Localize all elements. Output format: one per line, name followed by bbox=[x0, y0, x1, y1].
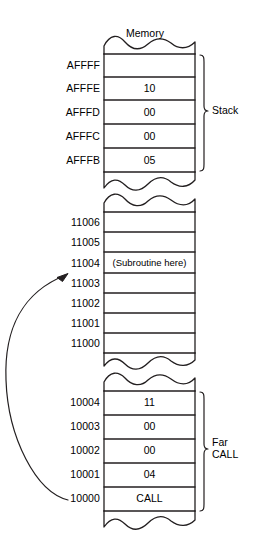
cell-value-10000: CALL bbox=[104, 492, 195, 504]
cell-value-AFFFD: 00 bbox=[104, 106, 195, 118]
address-label-10002: 10002 bbox=[40, 444, 100, 456]
cell-value-11004: (Subroutine here) bbox=[104, 257, 195, 269]
address-label-11001: 11001 bbox=[40, 317, 100, 329]
address-label-AFFFF: AFFFF bbox=[40, 59, 100, 71]
address-label-11000: 11000 bbox=[40, 337, 100, 349]
address-label-AFFFB: AFFFB bbox=[40, 154, 100, 166]
address-label-10001: 10001 bbox=[40, 468, 100, 480]
address-label-10004: 10004 bbox=[40, 396, 100, 408]
stack-bracket-label: Stack bbox=[212, 105, 238, 117]
address-label-11003: 11003 bbox=[40, 277, 100, 289]
address-label-AFFFE: AFFFE bbox=[40, 82, 100, 94]
cell-value-AFFFC: 00 bbox=[104, 130, 195, 142]
cell-value-10001: 04 bbox=[104, 468, 195, 480]
address-label-AFFFD: AFFFD bbox=[40, 106, 100, 118]
cell-value-AFFFB: 05 bbox=[104, 154, 195, 166]
cell-value-AFFFE: 10 bbox=[104, 82, 195, 94]
address-label-11004: 11004 bbox=[40, 257, 100, 269]
memory-title: Memory bbox=[85, 27, 205, 39]
address-label-AFFFC: AFFFC bbox=[40, 130, 100, 142]
address-label-10003: 10003 bbox=[40, 420, 100, 432]
cell-value-10003: 00 bbox=[104, 420, 195, 432]
address-label-11002: 11002 bbox=[40, 297, 100, 309]
cell-value-10004: 11 bbox=[104, 396, 195, 408]
far-call-bracket-label: Far CALL bbox=[212, 437, 238, 460]
cell-value-10002: 00 bbox=[104, 444, 195, 456]
address-label-11006: 11006 bbox=[40, 216, 100, 228]
address-label-10000: 10000 bbox=[40, 492, 100, 504]
address-label-11005: 11005 bbox=[40, 236, 100, 248]
